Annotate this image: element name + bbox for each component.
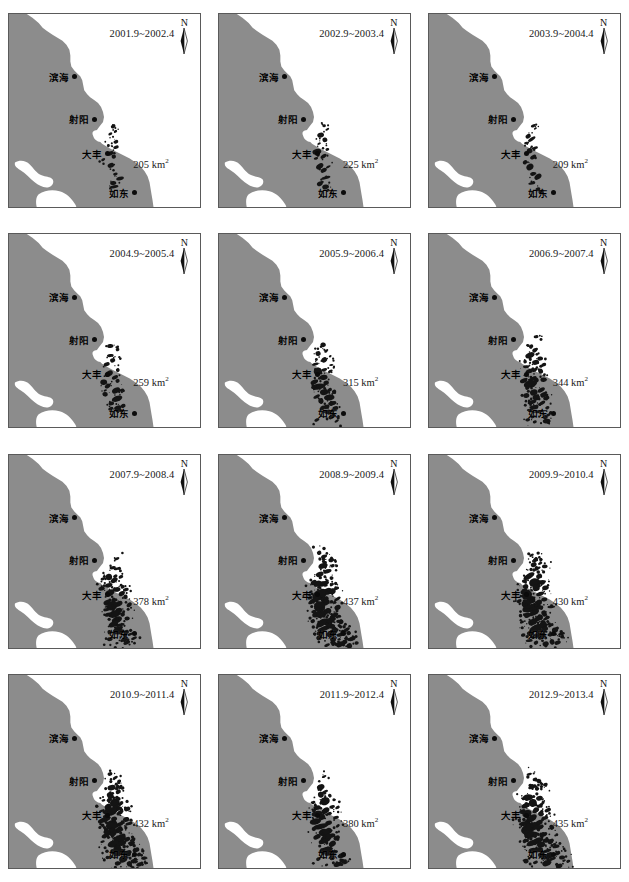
- area-unit: km: [152, 158, 165, 169]
- city-dot: [551, 411, 556, 416]
- city-dot: [315, 592, 320, 597]
- area-unit-exponent: 2: [375, 594, 379, 602]
- city-dot: [132, 411, 137, 416]
- period-label: 2010.9~2011.4: [110, 689, 174, 700]
- city-label: 射阳: [69, 774, 89, 788]
- city-label: 如东: [528, 847, 548, 861]
- coastline-map: [219, 455, 410, 648]
- city-label: 射阳: [488, 333, 508, 347]
- area-label: 380 km2: [343, 816, 378, 829]
- area-unit: km: [152, 818, 165, 829]
- north-arrow-icon: [599, 248, 609, 274]
- city-dot: [341, 190, 346, 195]
- map-panel-p12[interactable]: 2012.9~2013.4N435 km2滨海射阳大丰如东: [419, 662, 629, 882]
- city-dot: [282, 295, 287, 300]
- city-label: 大丰: [292, 367, 312, 381]
- city-dot: [92, 558, 97, 563]
- city-dot: [105, 372, 110, 377]
- city-label: 射阳: [278, 774, 298, 788]
- map-panel-p3[interactable]: 2003.9~2004.4N209 km2滨海射阳大丰如东: [419, 0, 629, 221]
- city-dot: [282, 736, 287, 741]
- city-label: 大丰: [501, 367, 521, 381]
- map-panel-p8[interactable]: 2008.9~2009.4N437 km2滨海射阳大丰如东: [210, 441, 420, 662]
- city-marker-3: 如东: [109, 406, 137, 420]
- area-unit: km: [152, 377, 165, 388]
- city-label: 射阳: [278, 333, 298, 347]
- city-dot: [551, 190, 556, 195]
- area-label: 430 km2: [553, 594, 588, 607]
- area-unit: km: [571, 818, 584, 829]
- area-unit-exponent: 2: [375, 157, 379, 165]
- city-dot: [492, 515, 497, 520]
- city-dot: [511, 778, 516, 783]
- north-arrow-icon: [179, 689, 189, 715]
- area-unit: km: [571, 595, 584, 606]
- north-letter: N: [595, 237, 613, 248]
- period-label: 2012.9~2013.4: [529, 689, 594, 700]
- city-dot: [72, 295, 77, 300]
- city-dot: [315, 151, 320, 156]
- city-dot: [341, 631, 346, 636]
- city-label: 如东: [109, 847, 129, 861]
- map-panel-p1[interactable]: 2001.9~2002.4N205 km2滨海射阳大丰如东: [0, 0, 210, 221]
- north-arrow: N: [385, 678, 403, 718]
- map-panel-p9[interactable]: 2009.9~2010.4N430 km2滨海射阳大丰如东: [419, 441, 629, 662]
- panel-frame: 2012.9~2013.4N435 km2滨海射阳大丰如东: [428, 674, 621, 869]
- area-value: 315: [343, 377, 359, 388]
- north-arrow: N: [595, 237, 613, 277]
- city-label: 如东: [318, 186, 338, 200]
- coastline-map: [429, 675, 620, 868]
- city-label: 如东: [109, 186, 129, 200]
- map-panel-p5[interactable]: 2005.9~2006.4N315 km2滨海射阳大丰如东: [210, 221, 420, 442]
- north-letter: N: [385, 237, 403, 248]
- area-unit: km: [361, 158, 374, 169]
- city-marker-1: 射阳: [278, 112, 306, 126]
- map-panel-p6[interactable]: 2006.9~2007.4N344 km2滨海射阳大丰如东: [419, 221, 629, 442]
- map-panel-p4[interactable]: 2004.9~2005.4N259 km2滨海射阳大丰如东: [0, 221, 210, 442]
- period-label: 2008.9~2009.4: [319, 469, 384, 480]
- coastline-map: [9, 14, 200, 207]
- city-dot: [72, 515, 77, 520]
- panel-frame: 2004.9~2005.4N259 km2滨海射阳大丰如东: [8, 233, 201, 428]
- area-value: 430: [553, 595, 569, 606]
- city-dot: [92, 117, 97, 122]
- city-dot: [72, 736, 77, 741]
- city-dot: [301, 778, 306, 783]
- area-label: 432 km2: [133, 816, 168, 829]
- period-label: 2004.9~2005.4: [110, 248, 175, 259]
- city-marker-3: 如东: [109, 186, 137, 200]
- city-label: 射阳: [69, 112, 89, 126]
- map-panel-p7[interactable]: 2007.9~2008.4N378 km2滨海射阳大丰如东: [0, 441, 210, 662]
- area-unit-exponent: 2: [375, 816, 379, 824]
- panel-frame: 2003.9~2004.4N209 km2滨海射阳大丰如东: [428, 13, 621, 208]
- city-marker-1: 射阳: [278, 553, 306, 567]
- city-marker-1: 射阳: [488, 333, 516, 347]
- map-panel-p11[interactable]: 2011.9~2012.4N380 km2滨海射阳大丰如东: [210, 662, 420, 882]
- city-dot: [132, 852, 137, 857]
- city-label: 滨海: [469, 70, 489, 84]
- north-arrow: N: [385, 17, 403, 57]
- city-dot: [92, 778, 97, 783]
- north-arrow-icon: [179, 28, 189, 54]
- north-arrow: N: [595, 17, 613, 57]
- city-dot: [105, 592, 110, 597]
- city-dot: [341, 852, 346, 857]
- map-panel-p2[interactable]: 2002.9~2003.4N225 km2滨海射阳大丰如东: [210, 0, 420, 221]
- city-dot: [551, 631, 556, 636]
- period-label: 2002.9~2003.4: [319, 28, 384, 39]
- city-label: 大丰: [292, 588, 312, 602]
- north-letter: N: [175, 678, 193, 689]
- area-unit: km: [361, 818, 374, 829]
- area-unit: km: [571, 377, 584, 388]
- city-marker-2: 大丰: [82, 808, 110, 822]
- area-label: 435 km2: [553, 816, 588, 829]
- city-marker-3: 如东: [109, 847, 137, 861]
- city-label: 滨海: [469, 290, 489, 304]
- city-label: 如东: [318, 406, 338, 420]
- city-label: 如东: [109, 406, 129, 420]
- map-panel-p10[interactable]: 2010.9~2011.4N432 km2滨海射阳大丰如东: [0, 662, 210, 882]
- area-value: 209: [553, 158, 569, 169]
- area-unit-exponent: 2: [165, 816, 169, 824]
- period-label: 2001.9~2002.4: [110, 28, 175, 39]
- city-label: 滨海: [49, 290, 69, 304]
